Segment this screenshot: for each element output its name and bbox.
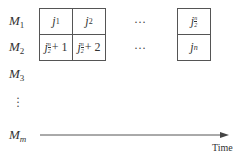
time-axis-arrow (0, 0, 242, 156)
time-axis-label: Time (212, 142, 233, 153)
